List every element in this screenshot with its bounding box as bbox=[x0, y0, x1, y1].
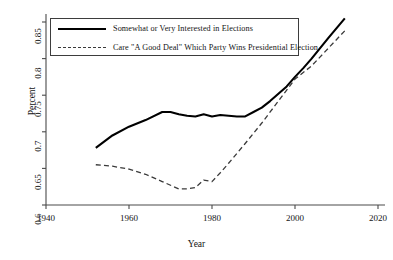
y-tick-label: 0.7 bbox=[33, 131, 43, 161]
x-tick-label: 2000 bbox=[275, 213, 315, 223]
legend-swatch-dashed-icon bbox=[58, 42, 106, 54]
x-tick-label: 1980 bbox=[192, 213, 232, 223]
y-axis-label: Percent bbox=[27, 71, 37, 131]
chart-figure: 0.60.650.70.750.80.85 194019601980200020… bbox=[0, 0, 393, 260]
legend-item-interested: Somewhat or Very Interested in Elections bbox=[51, 19, 298, 38]
y-tick-label: 0.85 bbox=[33, 21, 43, 51]
legend-swatch-solid-icon bbox=[58, 23, 106, 35]
legend-label-interested: Somewhat or Very Interested in Elections bbox=[113, 24, 253, 33]
x-axis-label: Year bbox=[0, 239, 393, 249]
legend-item-care: Care "A Good Deal" Which Party Wins Pres… bbox=[51, 38, 298, 57]
x-tick-label: 2020 bbox=[358, 213, 393, 223]
y-tick-label: 0.65 bbox=[33, 167, 43, 197]
legend-label-care: Care "A Good Deal" Which Party Wins Pres… bbox=[113, 43, 318, 52]
x-axis-ticks bbox=[46, 205, 378, 209]
x-tick-label: 1940 bbox=[26, 213, 66, 223]
x-tick-label: 1960 bbox=[109, 213, 149, 223]
legend: Somewhat or Very Interested in Elections… bbox=[50, 18, 299, 56]
